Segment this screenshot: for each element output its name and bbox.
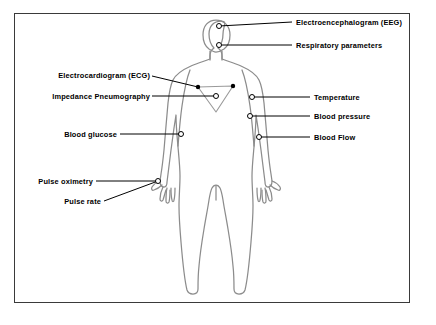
- right-arm-inner: [242, 70, 254, 146]
- diagram-page: Electroencephalogram (EEG) Respiratory p…: [0, 0, 436, 325]
- ecg-triangle: [198, 86, 233, 112]
- label-temperature: Temperature: [314, 94, 360, 101]
- marker-blood-glucose: [179, 132, 184, 137]
- label-blood-pressure: Blood pressure: [314, 113, 370, 120]
- leader-eeg: [219, 22, 292, 26]
- right-hand: [257, 181, 280, 203]
- leader-pulse-rate: [104, 181, 158, 201]
- marker-pulse: [156, 179, 161, 184]
- sensor-markers: [156, 24, 262, 184]
- marker-eeg: [217, 24, 222, 29]
- marker-respiratory: [217, 43, 222, 48]
- body-silhouette: [160, 21, 272, 294]
- label-blood-glucose: Blood glucose: [64, 131, 117, 138]
- label-eeg: Electroencephalogram (EEG): [296, 19, 402, 26]
- marker-blood-flow: [257, 135, 262, 140]
- ecg-triangle-path: [198, 86, 233, 112]
- label-ecg: Electrocardiogram (ECG): [58, 72, 150, 79]
- left-hand: [152, 181, 175, 203]
- marker-blood-pressure: [248, 114, 253, 119]
- label-pulse-oximetry: Pulse oximetry: [38, 178, 93, 185]
- marker-impedance: [214, 94, 219, 99]
- label-blood-flow: Blood Flow: [314, 134, 355, 141]
- leader-lines: [96, 22, 310, 201]
- label-pulse-rate: Pulse rate: [64, 198, 101, 205]
- human-body-outline: [152, 20, 281, 294]
- label-impedance: Impedance Pneumography: [52, 93, 150, 100]
- marker-ecg-electrode-left: [196, 85, 200, 89]
- marker-ecg-electrode-right: [231, 84, 235, 88]
- marker-temperature: [250, 95, 255, 100]
- label-respiratory: Respiratory parameters: [296, 42, 382, 49]
